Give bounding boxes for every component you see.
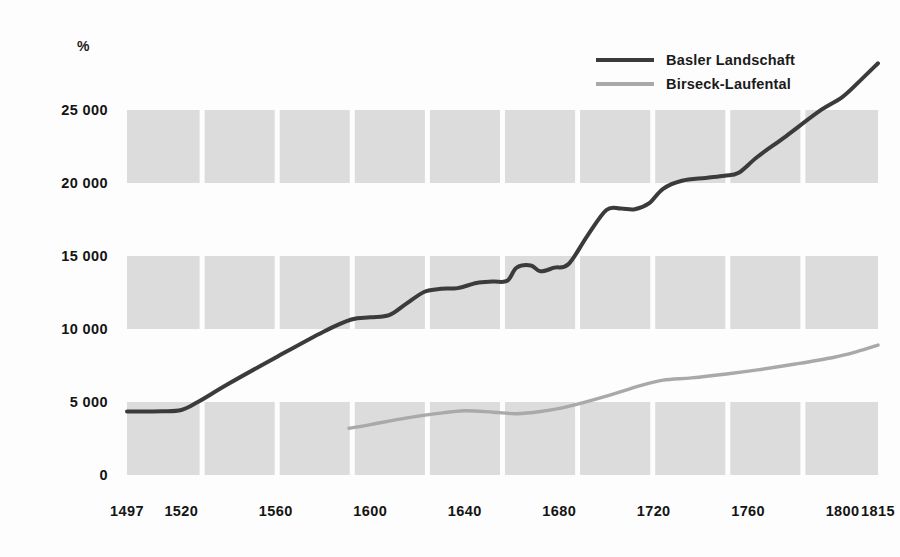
y-axis-tick-label: 25 000	[8, 102, 108, 118]
chart-container: % 05 00010 00015 00020 00025 000 1497152…	[0, 0, 900, 557]
grid-column-gap	[725, 55, 730, 477]
y-axis-tick-label: 5 000	[8, 394, 108, 410]
x-axis-tick-label: 1815	[861, 503, 895, 519]
grid-column-gap	[650, 55, 655, 477]
grid-column-gap	[800, 55, 805, 477]
x-axis-tick-label: 1520	[164, 503, 198, 519]
grid-column-gap	[200, 55, 205, 477]
y-axis-tick-label: 20 000	[8, 175, 108, 191]
x-axis-tick-label: 1800	[826, 503, 860, 519]
x-axis-tick-label: 1640	[448, 503, 482, 519]
y-axis-tick-label: 15 000	[8, 248, 108, 264]
legend-item-birseck-laufental[interactable]: Birseck-Laufental	[596, 72, 795, 96]
legend-item-basler-landschaft[interactable]: Basler Landschaft	[596, 48, 795, 72]
grid-column-gap	[575, 55, 580, 477]
x-axis-tick-label: 1760	[731, 503, 765, 519]
y-axis-tick-label: 0	[8, 467, 108, 483]
legend-swatch-basler-landschaft	[596, 58, 654, 62]
x-axis-tick-label: 1600	[353, 503, 387, 519]
x-axis-tick-label: 1560	[259, 503, 293, 519]
x-axis-tick-label: 1497	[110, 503, 144, 519]
y-axis-tick-label: 10 000	[8, 321, 108, 337]
grid-column-gap	[350, 55, 355, 477]
legend-label-basler-landschaft: Basler Landschaft	[666, 52, 795, 68]
chart-legend: Basler Landschaft Birseck-Laufental	[596, 48, 795, 96]
x-axis-tick-label: 1680	[542, 503, 576, 519]
legend-swatch-birseck-laufental	[596, 82, 654, 86]
x-axis-tick-label: 1720	[637, 503, 671, 519]
grid-column-gap	[275, 55, 280, 477]
legend-label-birseck-laufental: Birseck-Laufental	[666, 76, 791, 92]
